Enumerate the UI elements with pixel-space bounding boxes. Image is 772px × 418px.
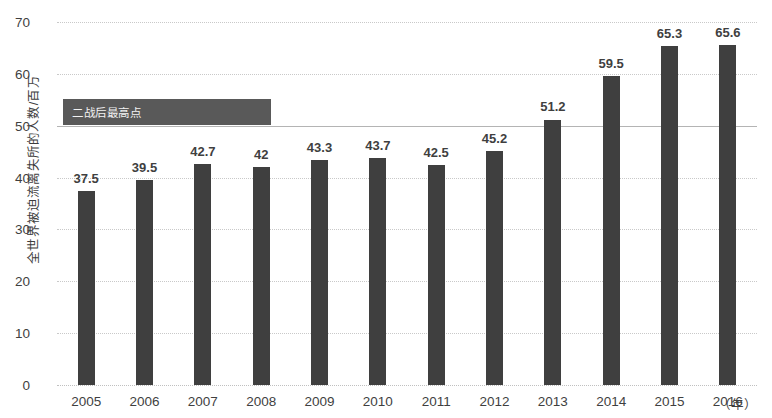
bar[interactable]: [194, 164, 211, 385]
bar[interactable]: [136, 180, 153, 385]
x-tick-label: 2014: [581, 394, 641, 409]
gridline-10: [57, 333, 757, 334]
y-tick-label: 0: [0, 378, 30, 393]
gridline-70: [57, 22, 757, 23]
annotation-label: 二战后最高点: [72, 104, 141, 120]
bar[interactable]: [311, 160, 328, 385]
x-tick-label: 2006: [115, 394, 175, 409]
gridline-40: [57, 178, 757, 179]
bar-value-label: 39.5: [115, 160, 175, 175]
y-tick-label: 70: [0, 15, 30, 30]
x-tick-label: 2011: [406, 394, 466, 409]
y-tick-label: 10: [0, 326, 30, 341]
bar-value-label: 51.2: [523, 99, 583, 114]
bar-value-label: 42.5: [406, 145, 466, 160]
x-tick-label: 2007: [173, 394, 233, 409]
bar[interactable]: [544, 120, 561, 386]
gridline-60: [57, 74, 757, 75]
x-tick-label: 2016: [698, 394, 758, 409]
x-tick-label: 2013: [523, 394, 583, 409]
bar-chart: 全世界被迫流离失所的人数/百万 010203040506070二战后最高点37.…: [0, 0, 772, 418]
x-tick-label: 2008: [231, 394, 291, 409]
x-tick-label: 2010: [348, 394, 408, 409]
bar[interactable]: [719, 45, 736, 385]
bar-value-label: 42: [231, 147, 291, 162]
bar-value-label: 43.7: [348, 138, 408, 153]
bar[interactable]: [369, 158, 386, 385]
plot-area: 010203040506070二战后最高点37.539.542.74243.34…: [57, 22, 757, 385]
x-tick-label: 2009: [290, 394, 350, 409]
gridline-0: [57, 385, 757, 386]
reference-line: [57, 126, 757, 127]
bar-value-label: 45.2: [465, 131, 525, 146]
bar-value-label: 37.5: [56, 171, 116, 186]
bar-value-label: 43.3: [290, 140, 350, 155]
bar-value-label: 59.5: [581, 56, 641, 71]
bar[interactable]: [253, 167, 270, 385]
x-tick-label: 2015: [640, 394, 700, 409]
x-tick-label: 2012: [465, 394, 525, 409]
bar[interactable]: [661, 46, 678, 385]
gridline-30: [57, 229, 757, 230]
y-tick-label: 50: [0, 118, 30, 133]
bar-value-label: 65.3: [640, 26, 700, 41]
bar-value-label: 42.7: [173, 144, 233, 159]
y-tick-label: 20: [0, 274, 30, 289]
bar[interactable]: [428, 165, 445, 385]
annotation-box: 二战后最高点: [63, 99, 271, 125]
bar-value-label: 65.6: [698, 25, 758, 40]
y-tick-label: 40: [0, 170, 30, 185]
x-tick-label: 2005: [56, 394, 116, 409]
y-tick-label: 60: [0, 66, 30, 81]
bar[interactable]: [486, 151, 503, 385]
gridline-20: [57, 281, 757, 282]
bar[interactable]: [78, 191, 95, 385]
y-tick-label: 30: [0, 222, 30, 237]
bar[interactable]: [603, 76, 620, 385]
